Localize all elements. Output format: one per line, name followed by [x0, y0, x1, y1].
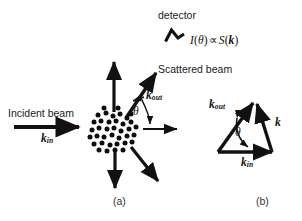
- intensity-relation-formula: I(θ) ∝ S(k): [190, 35, 238, 47]
- close-paren-2: ): [234, 34, 238, 46]
- k-subscript: in: [247, 160, 254, 169]
- triangle-angle-label: θ: [235, 127, 241, 139]
- proportional-symbol: ∝: [209, 34, 218, 46]
- scattering-figure: detector I(θ) ∝ S(k) Incident beam kin S…: [0, 0, 302, 221]
- panel-b-caption: (b): [256, 196, 269, 207]
- k-in-vector-label: kin: [241, 157, 253, 169]
- incident-wavevector-label: kin: [41, 133, 53, 145]
- k-subscript: out: [215, 102, 226, 111]
- outgoing-wavevector-label: kout: [146, 90, 162, 102]
- close-paren: ): [204, 34, 208, 46]
- incident-beam-label: Incident beam: [8, 108, 74, 119]
- detector-label: detector: [158, 10, 196, 21]
- scattering-angle-label: θ: [133, 106, 139, 118]
- k-transfer-vector-label: k: [275, 117, 281, 129]
- k-subscript: in: [47, 136, 54, 145]
- scattering-angle-arc: [141, 98, 150, 124]
- scattered-beam-arrow-down-right: [131, 147, 158, 181]
- k-out-vector-label: kout: [209, 99, 225, 111]
- panel-a-caption: (a): [113, 196, 126, 207]
- k-transfer-vector: [257, 104, 272, 152]
- chevron-detector-icon: [166, 30, 185, 42]
- scattered-beam-label: Scattered beam: [158, 64, 232, 75]
- particle-cluster: [88, 106, 139, 154]
- k-base: k: [275, 116, 281, 128]
- k-subscript: out: [152, 93, 163, 102]
